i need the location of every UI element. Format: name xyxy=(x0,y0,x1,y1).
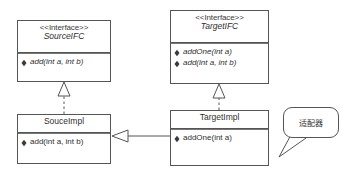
class-member: add(int a, int b) xyxy=(175,58,264,69)
class-members: add(int a, int b) xyxy=(18,53,110,72)
class-name: SouceImpl xyxy=(20,117,108,127)
hollow-triangle-arrowhead xyxy=(112,130,128,142)
relation-generalize-souce-impl xyxy=(112,130,170,142)
relation-realize-source-ifc xyxy=(58,82,70,114)
class-member: add(int a, int b) xyxy=(22,57,106,68)
class-header: TargetImpl xyxy=(171,111,268,129)
class-member: add(int a, int b) xyxy=(22,137,106,148)
class-name: TargetImpl xyxy=(173,113,266,123)
class-name: TargetIFC xyxy=(173,22,266,32)
hollow-triangle-arrowhead xyxy=(58,82,70,96)
class-header: SouceImpl xyxy=(18,115,110,133)
class-members: add(int a, int b) xyxy=(18,133,110,152)
class-member: addOne(int a) xyxy=(175,47,264,58)
uml-class-souce-impl[interactable]: SouceImpl add(int a, int b) xyxy=(17,114,111,164)
uml-class-source-ifc[interactable]: <<Interface>> SourceIFC add(int a, int b… xyxy=(17,20,111,82)
class-members: addOne(int a) add(int a, int b) xyxy=(171,43,268,73)
class-members: addOne(int a) xyxy=(171,129,268,148)
callout-bubble-adapter[interactable]: 适配器 xyxy=(283,107,339,138)
hollow-triangle-arrowhead xyxy=(213,84,225,98)
callout-label: 适配器 xyxy=(299,117,324,128)
uml-class-target-ifc[interactable]: <<Interface>> TargetIFC addOne(int a) ad… xyxy=(170,10,269,84)
class-name: SourceIFC xyxy=(20,32,108,42)
relation-realize-target-ifc xyxy=(213,84,225,110)
uml-diagram-canvas: <<Interface>> SourceIFC add(int a, int b… xyxy=(0,0,345,179)
class-header: <<Interface>> SourceIFC xyxy=(18,21,110,53)
uml-class-target-impl[interactable]: TargetImpl addOne(int a) xyxy=(170,110,269,166)
class-member: addOne(int a) xyxy=(175,133,264,144)
class-header: <<Interface>> TargetIFC xyxy=(171,11,268,43)
